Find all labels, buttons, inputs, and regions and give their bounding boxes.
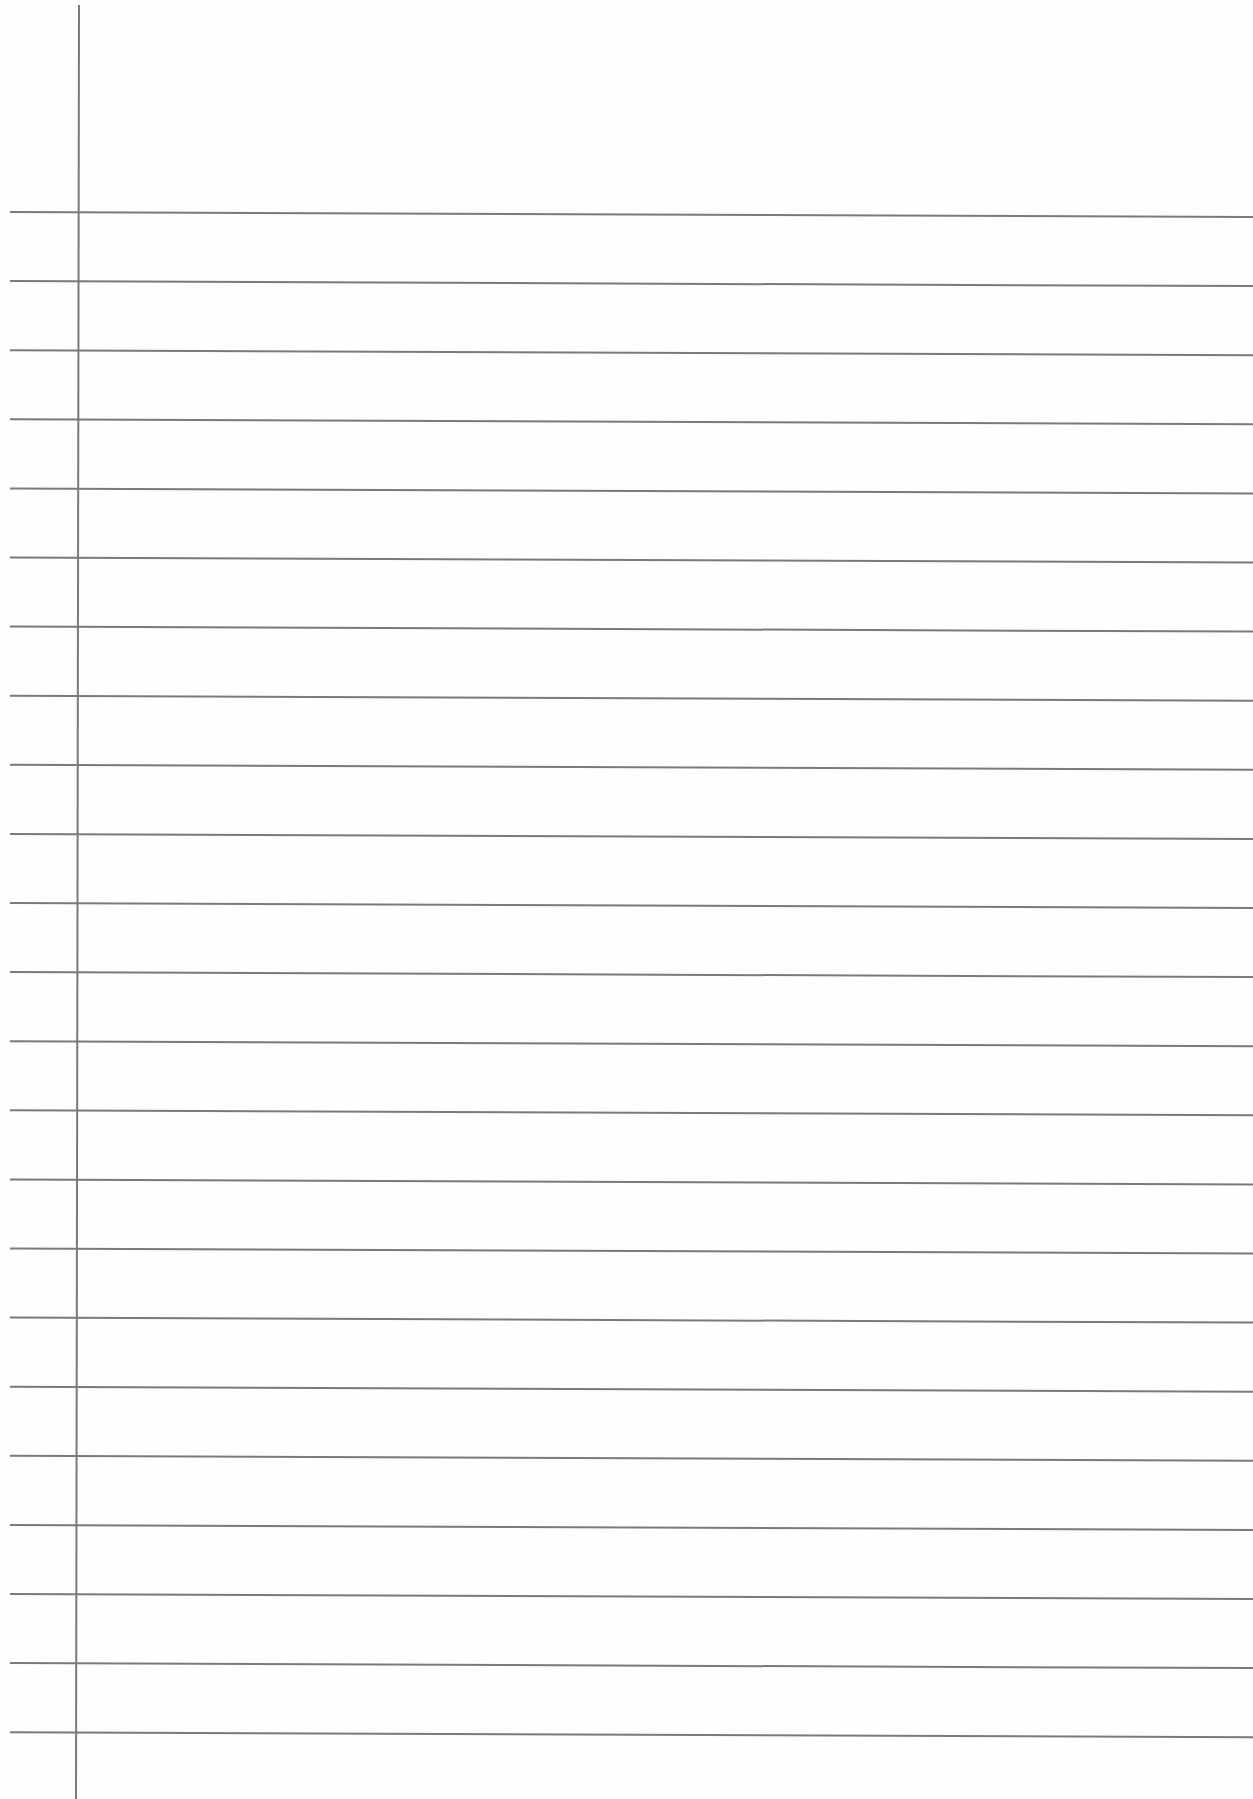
ruled-line: [10, 1110, 1253, 1115]
ruled-line: [10, 1594, 1253, 1599]
ruled-line: [10, 1318, 1253, 1323]
ruled-line: [10, 627, 1253, 632]
ruled-line: [10, 903, 1253, 908]
ruled-line: [10, 488, 1253, 493]
ruled-line: [10, 765, 1253, 770]
ruled-lines-canvas: [0, 0, 1253, 1799]
ruled-line: [10, 972, 1253, 977]
ruled-line: [10, 834, 1253, 839]
ruled-line: [10, 350, 1253, 355]
ruled-line: [10, 281, 1253, 286]
ruled-line: [10, 1387, 1253, 1392]
ruled-line: [10, 1456, 1253, 1461]
ruled-line: [10, 558, 1253, 563]
ruled-line: [10, 1525, 1253, 1530]
ruled-line: [10, 696, 1253, 701]
margin-line: [76, 5, 79, 1799]
ruled-line: [10, 1179, 1253, 1184]
ruled-line: [10, 419, 1253, 424]
ruled-line: [10, 212, 1253, 217]
ruled-line: [10, 1663, 1253, 1668]
ruled-line: [10, 1041, 1253, 1046]
horizontal-ruled-lines: [10, 212, 1253, 1737]
ruled-paper-page: [0, 0, 1253, 1799]
ruled-line: [10, 1732, 1253, 1737]
ruled-line: [10, 1249, 1253, 1254]
